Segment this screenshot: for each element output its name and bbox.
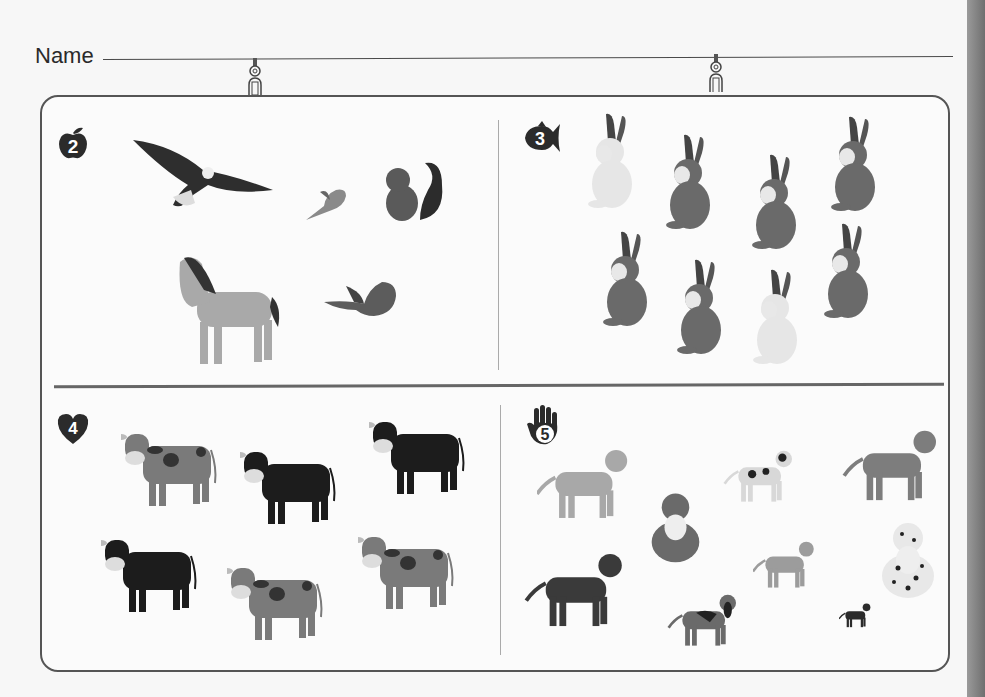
svg-text:4: 4: [68, 419, 78, 438]
basset-illustration: [664, 592, 742, 647]
rabbit-illustration: [584, 112, 634, 210]
name-input-line[interactable]: [103, 56, 953, 60]
chihuahua-illustration: [839, 597, 871, 633]
cow-illustration: [121, 428, 219, 508]
robin-illustration: [324, 274, 399, 324]
cow-illustration: [358, 531, 456, 611]
rabbit-illustration: [599, 230, 649, 328]
eagle-illustration: [133, 135, 273, 210]
vertical-divider-top: [498, 120, 499, 370]
rabbit-illustration: [827, 115, 877, 213]
squirrel-illustration: [380, 155, 445, 225]
page-edge-shadow: [967, 0, 985, 697]
cow-illustration: [227, 562, 325, 642]
terrier-illustration: [719, 448, 799, 503]
section-3-fish-badge-icon: 3: [522, 120, 562, 156]
svg-text:3: 3: [535, 129, 545, 149]
svg-text:2: 2: [68, 136, 79, 157]
rabbit-illustration: [748, 153, 798, 251]
collie-illustration: [648, 488, 703, 563]
rabbit-illustration: [662, 133, 712, 231]
small-bird-illustration: [306, 178, 351, 223]
spaniel-illustration: [521, 550, 629, 628]
name-label: Name: [35, 43, 94, 69]
horse-illustration: [172, 252, 287, 367]
section-4-heart-badge-icon: 4: [55, 410, 91, 446]
section-2-apple-badge-icon: 2: [55, 126, 91, 162]
rabbit-illustration: [749, 268, 799, 366]
vertical-divider-bottom: [500, 405, 501, 655]
hanger-clip-icon: [708, 54, 724, 92]
labrador-illustration: [537, 443, 629, 523]
dalmatian-illustration: [878, 518, 938, 598]
poodle-illustration: [753, 525, 815, 603]
cow-illustration: [240, 446, 338, 526]
section-5-hand-badge-icon: 5: [525, 404, 563, 446]
setter-illustration: [838, 427, 944, 502]
cow-illustration: [101, 534, 199, 614]
cow-illustration: [369, 416, 467, 496]
svg-text:5: 5: [541, 426, 550, 443]
hanger-clip-icon: [247, 58, 263, 96]
rabbit-illustration: [820, 222, 870, 320]
rabbit-illustration: [673, 258, 723, 356]
